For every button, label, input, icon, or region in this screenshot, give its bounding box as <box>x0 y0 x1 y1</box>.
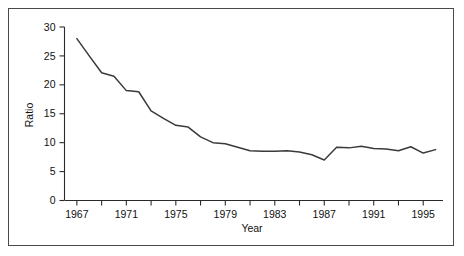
x-axis-tick-label: 1975 <box>164 208 188 220</box>
x-axis: 19671971197519791983198719911995 <box>65 201 444 220</box>
x-axis-tick-label: 1971 <box>115 208 139 220</box>
y-axis-tick-label: 25 <box>44 50 56 62</box>
x-axis-tick-label: 1983 <box>263 208 287 220</box>
y-axis-tick-label: 5 <box>50 165 56 177</box>
x-axis-tick-label: 1991 <box>362 208 386 220</box>
x-axis-tick-group: 19671971197519791983198719911995 <box>65 201 435 220</box>
y-axis-tick-label: 30 <box>44 21 56 33</box>
y-axis-tick-label: 15 <box>44 107 56 119</box>
y-axis-tick-label: 0 <box>50 194 56 206</box>
x-axis-tick-label: 1967 <box>65 208 89 220</box>
y-axis-tick-label: 10 <box>44 136 56 148</box>
y-axis: 051015202530 <box>44 21 65 207</box>
y-axis-tick-label: 20 <box>44 78 56 90</box>
ratio-series-line <box>77 39 436 160</box>
x-axis-tick-label: 1979 <box>214 208 238 220</box>
x-axis-tick-label: 1995 <box>412 208 436 220</box>
y-axis-tick-group: 051015202530 <box>44 21 65 207</box>
x-axis-tick-label: 1987 <box>313 208 337 220</box>
x-axis-title: Year <box>241 222 263 234</box>
line-chart: 051015202530 196719711975197919831987199… <box>0 0 464 256</box>
y-axis-title: Ratio <box>23 103 35 128</box>
